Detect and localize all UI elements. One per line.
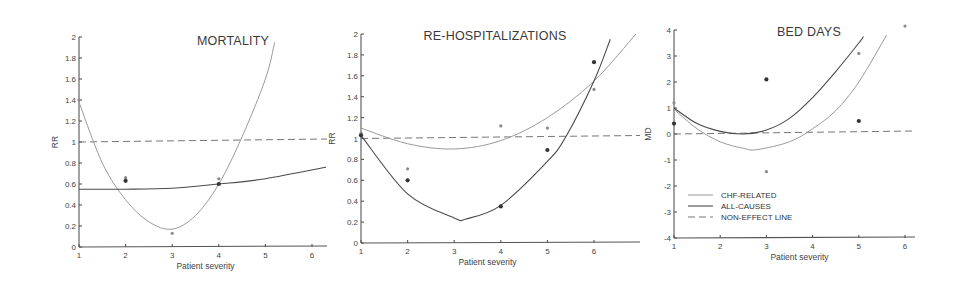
all-causes-fit-curve — [361, 39, 610, 221]
all-causes-data-point — [764, 77, 768, 81]
y-tick-label: -1 — [664, 156, 672, 165]
chf-related-data-point — [765, 170, 768, 173]
non-effect-line — [79, 139, 327, 142]
legend-label: NON-EFFECT LINE — [721, 213, 792, 222]
x-tick-label: 6 — [592, 247, 597, 256]
x-tick-label: 5 — [857, 242, 862, 251]
all-causes-data-point — [592, 60, 596, 64]
x-tick-label: 2 — [405, 247, 410, 256]
y-tick-label: 0.4 — [347, 197, 359, 206]
all-causes-data-point — [217, 182, 221, 186]
y-tick-label: -2 — [664, 182, 672, 191]
chart-bed-days: -4-3-2-101234123456Patient severityMDBED… — [643, 25, 915, 263]
x-axis — [79, 246, 327, 247]
y-tick-label: 3 — [667, 52, 672, 61]
x-axis — [674, 237, 915, 238]
y-tick-label: 1.6 — [65, 75, 77, 84]
chf-related-fit-curve — [361, 34, 636, 149]
y-tick-label: -3 — [664, 208, 672, 217]
y-tick-label: 0.2 — [347, 218, 359, 227]
x-tick-label: 4 — [499, 247, 504, 256]
x-axis-label: Patient severity — [458, 257, 517, 267]
y-tick-label: 0.4 — [65, 201, 77, 210]
y-tick-label: 0.8 — [347, 155, 359, 164]
x-tick-label: 1 — [672, 242, 677, 251]
non-effect-line — [361, 136, 640, 139]
chart-mortality: 00.20.40.60.811.21.41.61.82123456Patient… — [50, 33, 327, 271]
y-tick-label: 1.2 — [347, 114, 359, 123]
y-axis-label: RR — [327, 132, 337, 144]
y-tick-label: 1.8 — [65, 54, 77, 63]
chf-related-fit-curve — [79, 42, 275, 229]
y-tick-label: 1.2 — [65, 117, 77, 126]
chf-related-data-point — [546, 126, 549, 129]
chf-related-data-point — [592, 88, 595, 91]
chf-related-data-point — [406, 167, 409, 170]
y-axis-label: MD — [643, 127, 653, 140]
all-causes-data-point — [359, 133, 363, 137]
y-tick-label: 1 — [667, 104, 672, 113]
x-tick-label: 3 — [170, 251, 175, 260]
figure-canvas: 00.20.40.60.811.21.41.61.82123456Patient… — [0, 0, 962, 283]
y-tick-label: -4 — [664, 234, 672, 243]
y-tick-label: 0.2 — [65, 222, 77, 231]
y-tick-label: 1.8 — [347, 51, 359, 60]
y-tick-label: 1.4 — [65, 96, 77, 105]
chart-rehospitalizations: 00.20.40.60.811.21.41.61.82123456Patient… — [327, 29, 640, 267]
y-tick-label: 0.8 — [65, 159, 77, 168]
y-tick-label: 2 — [667, 78, 672, 87]
x-tick-label: 5 — [545, 247, 550, 256]
chf-related-data-point — [903, 25, 906, 28]
x-tick-label: 5 — [263, 251, 268, 260]
y-tick-label: 2 — [354, 30, 359, 39]
all-causes-data-point — [124, 179, 128, 183]
y-tick-label: 1 — [354, 135, 359, 144]
y-tick-label: 2 — [72, 33, 77, 42]
x-tick-label: 3 — [764, 242, 769, 251]
x-axis-label: Patient severity — [176, 261, 235, 271]
y-tick-label: 1.4 — [347, 93, 359, 102]
y-tick-label: 0.6 — [65, 180, 77, 189]
all-causes-data-point — [857, 119, 861, 123]
x-axis-label: Patient severity — [770, 252, 829, 262]
chf-related-data-point — [217, 177, 220, 180]
chf-related-data-point — [857, 52, 860, 55]
x-tick-label: 3 — [452, 247, 457, 256]
chart-title: MORTALITY — [197, 34, 270, 48]
all-causes-data-point — [545, 148, 549, 152]
y-tick-label: 1.6 — [347, 72, 359, 81]
chf-related-fit-curve — [674, 35, 887, 150]
x-tick-label: 1 — [77, 251, 82, 260]
chf-related-data-point — [171, 232, 174, 235]
x-tick-label: 6 — [903, 242, 908, 251]
all-causes-data-point — [499, 204, 503, 208]
x-tick-label: 4 — [810, 242, 815, 251]
x-tick-label: 2 — [123, 251, 128, 260]
y-tick-label: 4 — [667, 26, 672, 35]
x-tick-label: 4 — [217, 251, 222, 260]
legend-label: CHF-RELATED — [721, 191, 777, 200]
legend: CHF-RELATEDALL-CAUSESNON-EFFECT LINE — [688, 191, 792, 222]
chart-title: RE-HOSPITALIZATIONS — [424, 29, 567, 43]
x-tick-label: 2 — [718, 242, 723, 251]
all-causes-data-point — [406, 178, 410, 182]
chf-related-data-point — [77, 98, 80, 101]
all-causes-fit-curve — [674, 37, 863, 135]
non-effect-line — [674, 131, 915, 134]
y-axis-label: RR — [50, 136, 60, 148]
legend-label: ALL-CAUSES — [721, 202, 771, 211]
y-tick-label: 1 — [72, 138, 77, 147]
y-tick-label: 0 — [667, 130, 672, 139]
chart-title: BED DAYS — [777, 25, 841, 39]
chf-related-data-point — [499, 124, 502, 127]
x-tick-label: 1 — [359, 247, 364, 256]
y-tick-label: 0.6 — [347, 176, 359, 185]
x-tick-label: 6 — [310, 251, 315, 260]
chf-related-data-point — [672, 101, 675, 104]
all-causes-data-point — [672, 122, 676, 126]
